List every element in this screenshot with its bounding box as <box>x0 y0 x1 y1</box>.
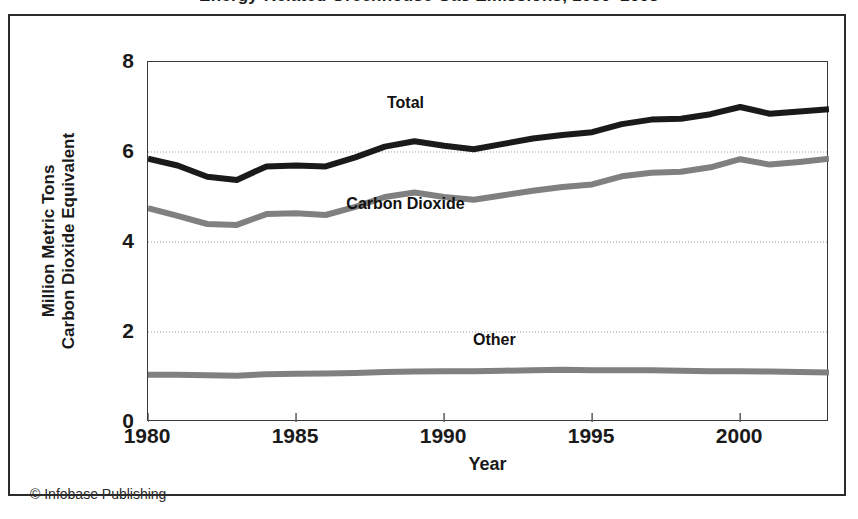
plot-area <box>147 61 828 421</box>
series-line-total <box>148 107 829 180</box>
y-tick-label-4: 4 <box>122 229 134 253</box>
series-label-total: Total <box>387 94 424 112</box>
series-line-carbon-dioxide <box>148 159 829 225</box>
y-tick-label-8: 8 <box>122 49 134 73</box>
publisher-credit: © Infobase Publishing <box>30 486 166 502</box>
x-tick-marks <box>148 413 740 422</box>
figure-title-cropped: Energy-Related Greenhouse Gas Emissions,… <box>0 0 858 4</box>
gridlines <box>148 152 829 332</box>
y-tick-label-2: 2 <box>122 319 134 343</box>
x-tick-label-1990: 1990 <box>420 424 467 448</box>
series-label-other: Other <box>473 331 516 349</box>
x-tick-label-1980: 1980 <box>124 424 171 448</box>
x-axis-title: Year <box>147 454 828 475</box>
x-tick-label-1995: 1995 <box>568 424 615 448</box>
x-axis-tick-labels: 19801985199019952000 <box>147 424 828 454</box>
chart-svg <box>148 62 829 422</box>
series-line-other <box>148 370 829 376</box>
series-label-carbon-dioxide: Carbon Dioxide <box>346 195 464 213</box>
x-tick-label-2000: 2000 <box>716 424 763 448</box>
x-tick-label-1985: 1985 <box>272 424 319 448</box>
y-axis-tick-labels: 02468 <box>18 61 142 421</box>
y-tick-label-6: 6 <box>122 139 134 163</box>
figure-frame: Million Metric Tons Carbon Dioxide Equiv… <box>8 14 846 496</box>
